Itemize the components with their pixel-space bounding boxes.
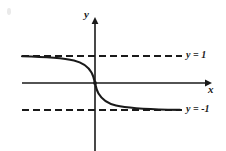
lower-asymptote-label: y = -1 xyxy=(186,104,209,114)
x-axis xyxy=(22,79,212,86)
graph-figure: y x y = 1 y = -1 xyxy=(0,0,226,151)
upper-asymptote-label: y = 1 xyxy=(186,50,206,60)
x-axis-label: x xyxy=(208,84,214,95)
y-axis-label: y xyxy=(84,9,89,20)
plot-canvas xyxy=(0,0,226,151)
origin-point xyxy=(93,81,97,85)
